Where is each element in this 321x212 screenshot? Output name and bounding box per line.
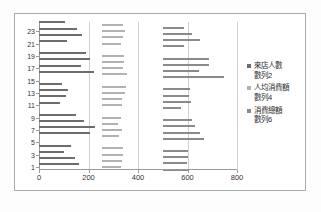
bar-group [39, 71, 237, 77]
bar [163, 138, 204, 140]
bar [102, 154, 123, 156]
legend-swatch-icon [247, 86, 251, 90]
bar [102, 55, 124, 57]
x-axis-label: 200 [82, 174, 95, 182]
bar-group: 11 [39, 102, 237, 108]
legend-label: 消費總額 [254, 107, 282, 116]
bar-group [39, 22, 237, 28]
y-axis-tick [36, 167, 39, 168]
bar [163, 27, 184, 29]
y-axis-tick [36, 118, 39, 119]
y-axis-label: 17 [27, 65, 35, 72]
bar-group [39, 133, 237, 139]
legend-sublabel: 數列2 [254, 72, 321, 81]
y-axis-tick [36, 44, 39, 45]
chart-legend: 來店人數 數列2 人均消費額 數列4 消費總額 數列6 [247, 62, 321, 129]
chart-frame: 02004006008001357911131517192123 來店人數 數列… [14, 13, 306, 191]
y-axis-tick [36, 155, 39, 156]
bar-group [39, 84, 237, 90]
chart-root: 02004006008001357911131517192123 來店人數 數列… [0, 0, 321, 212]
x-axis-label: 0 [37, 174, 41, 182]
bar [163, 132, 201, 134]
legend-label: 來店人數 [254, 62, 282, 71]
bar [163, 125, 195, 127]
bar-group: 3 [39, 152, 237, 158]
bar-group [39, 121, 237, 127]
y-axis-tick [36, 142, 39, 143]
y-axis-tick [36, 31, 39, 32]
x-axis-line [39, 169, 237, 170]
bar [163, 45, 184, 47]
bar [102, 129, 122, 131]
bar [163, 162, 187, 164]
bar [163, 70, 200, 72]
bar [163, 107, 181, 109]
plot-inner: 02004006008001357911131517192123 [39, 22, 237, 170]
bar [102, 73, 127, 75]
legend-item[interactable]: 人均消費額 [247, 84, 321, 93]
bar [102, 98, 122, 100]
legend-item[interactable]: 來店人數 [247, 62, 321, 71]
bar [163, 39, 200, 41]
y-axis-label: 5 [31, 139, 35, 146]
legend-label: 人均消費額 [254, 84, 289, 93]
bar [102, 30, 125, 32]
bar [163, 95, 190, 97]
legend-sublabel: 數列4 [254, 94, 321, 103]
legend-swatch-icon [247, 109, 251, 113]
bar [102, 24, 123, 26]
gridline [237, 22, 238, 170]
bar [102, 43, 121, 45]
bar-group [39, 96, 237, 102]
bar-group: 5 [39, 139, 237, 145]
y-axis-tick [36, 81, 39, 82]
legend-item[interactable]: 消費總額 [247, 107, 321, 116]
bar [102, 86, 126, 88]
y-axis-label: 13 [27, 90, 35, 97]
bar [102, 61, 124, 63]
bar [102, 123, 118, 125]
x-axis-label: 800 [231, 174, 244, 182]
bar [102, 166, 121, 168]
y-axis-label: 7 [31, 127, 35, 134]
bar-group [39, 47, 237, 53]
y-axis-tick [36, 93, 39, 94]
y-axis-tick [36, 68, 39, 69]
y-axis-label: 9 [31, 115, 35, 122]
bar [102, 92, 125, 94]
y-axis-label: 19 [27, 53, 35, 60]
y-axis-tick [36, 56, 39, 57]
y-axis-tick [36, 105, 39, 106]
bar-group: 17 [39, 65, 237, 71]
bar [102, 104, 122, 106]
bar [163, 88, 191, 90]
bar [163, 150, 188, 152]
bar-group: 15 [39, 78, 237, 84]
bar-group: 19 [39, 53, 237, 59]
y-axis-label: 11 [28, 102, 35, 109]
bar [39, 21, 65, 23]
y-axis-label: 23 [27, 28, 35, 35]
x-axis-label: 400 [132, 174, 145, 182]
bar-group: 9 [39, 115, 237, 121]
bar [163, 64, 210, 66]
bar-group [39, 145, 237, 151]
y-axis-tick [36, 130, 39, 131]
bar-group: 13 [39, 90, 237, 96]
bar-group [39, 59, 237, 65]
y-axis-label: 1 [31, 164, 35, 171]
bar [163, 58, 209, 60]
y-axis-label: 3 [31, 152, 35, 159]
legend-swatch-icon [247, 64, 251, 68]
y-axis-label: 15 [27, 78, 35, 85]
bar [163, 119, 193, 121]
bar-group [39, 34, 237, 40]
bar-group [39, 158, 237, 164]
bar [102, 67, 123, 69]
legend-sublabel: 數列6 [254, 116, 321, 125]
bar [102, 117, 121, 119]
bar-group: 21 [39, 41, 237, 47]
bar [102, 147, 123, 149]
bar [163, 33, 192, 35]
x-axis-label: 600 [181, 174, 194, 182]
